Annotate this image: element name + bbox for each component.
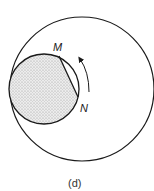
figure-caption: (d) [68,177,81,189]
label-n: N [80,102,88,114]
rotation-arrow-icon [80,59,89,92]
diagram-figure: M N (d) [0,0,154,191]
label-m: M [53,41,63,53]
